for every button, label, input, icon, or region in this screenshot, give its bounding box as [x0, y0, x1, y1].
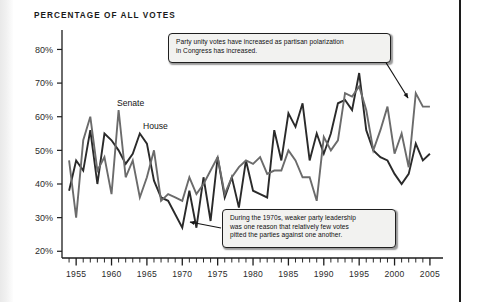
x-tick-label: 2000: [384, 269, 404, 279]
x-tick-label: 1970: [172, 269, 192, 279]
y-tick-label: 70%: [35, 78, 53, 88]
x-tick-label: 1965: [137, 269, 157, 279]
x-tick-label: 1980: [243, 269, 263, 279]
annotation-1970s-arrow: [190, 222, 221, 228]
x-tick-label: 2005: [420, 269, 440, 279]
y-tick-label: 30%: [35, 213, 53, 223]
annotation-line: Party unity votes have increased as part…: [176, 38, 383, 47]
annotation-line: pitted the parties against one another.: [230, 231, 388, 240]
y-tick-label: 80%: [35, 45, 53, 55]
annotation-line: was one reason that relatively few votes: [230, 223, 388, 232]
data-series: [69, 73, 430, 228]
annotation-1970s: During the 1970s, weaker party leadershi…: [222, 209, 396, 248]
series-labels: SenateHouse: [117, 98, 168, 131]
annotation-polarization-arrow: [385, 61, 408, 98]
chart-page: PERCENTAGE OF ALL VOTES 20%30%40%50%60%7…: [0, 0, 477, 302]
y-tick-label: 20%: [35, 246, 53, 256]
annotation-line: During the 1970s, weaker party leadershi…: [230, 214, 388, 223]
x-tick-label: 1990: [314, 269, 334, 279]
y-tick-label: 50%: [35, 146, 53, 156]
series-label-house: House: [143, 121, 168, 131]
x-tick-label: 1960: [101, 269, 121, 279]
x-tick-label: 1975: [208, 269, 228, 279]
annotation-line: in Congress has increased.: [176, 47, 383, 56]
annotation-1970s-text: During the 1970s, weaker party leadershi…: [223, 210, 395, 244]
x-tick-label: 1985: [278, 269, 298, 279]
annotation-polarization: Party unity votes have increased as part…: [168, 33, 391, 63]
x-tick-label: 1955: [66, 269, 86, 279]
x-tick-label: 1995: [349, 269, 369, 279]
series-label-senate: Senate: [117, 98, 144, 108]
page-right-margin: [461, 0, 477, 302]
y-tick-label: 60%: [35, 112, 53, 122]
y-tick-label: 40%: [35, 179, 53, 189]
annotation-polarization-text: Party unity votes have increased as part…: [169, 34, 390, 59]
